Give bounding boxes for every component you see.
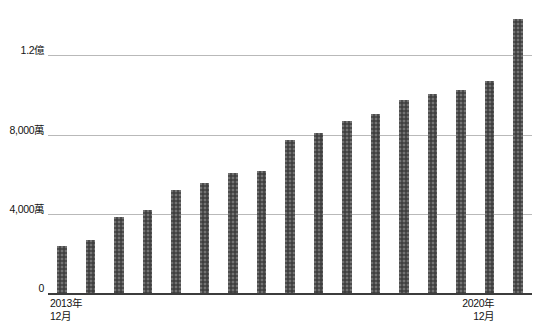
bar xyxy=(285,140,295,294)
x-tick-last-month: 12月 xyxy=(462,310,494,323)
bar xyxy=(428,94,438,294)
bar xyxy=(456,90,466,294)
bar xyxy=(171,190,181,294)
bar-chart: 1.2億 8,000萬 4,000萬 0 2013年 12月 2020年 12月 xyxy=(0,0,540,334)
bar xyxy=(257,171,267,294)
y-axis-tick-labels: 1.2億 8,000萬 4,000萬 0 xyxy=(0,0,44,288)
bar xyxy=(513,19,523,294)
x-tick-first-month: 12月 xyxy=(50,310,82,323)
bar xyxy=(228,173,238,294)
bar xyxy=(399,100,409,294)
y-tick-label-120m: 1.2億 xyxy=(0,42,44,57)
x-axis-line xyxy=(48,293,532,295)
bar xyxy=(57,246,67,294)
bar xyxy=(200,183,210,294)
y-tick-label-80m: 8,000萬 xyxy=(0,121,44,136)
bar xyxy=(371,114,381,294)
x-tick-first-year: 2013年 xyxy=(50,297,82,309)
x-tick-label-last: 2020年 12月 xyxy=(462,297,494,323)
plot-area xyxy=(48,6,532,294)
y-tick-label-40m: 4,000萬 xyxy=(0,201,44,216)
bar xyxy=(314,133,324,294)
bar xyxy=(114,217,124,294)
x-tick-last-year: 2020年 xyxy=(462,297,494,309)
bar xyxy=(86,240,96,294)
x-tick-label-first: 2013年 12月 xyxy=(50,297,82,323)
y-tick-label-0: 0 xyxy=(0,282,44,294)
bar xyxy=(485,81,495,294)
bar-series xyxy=(48,6,532,294)
bar xyxy=(143,210,153,294)
bar xyxy=(342,121,352,294)
